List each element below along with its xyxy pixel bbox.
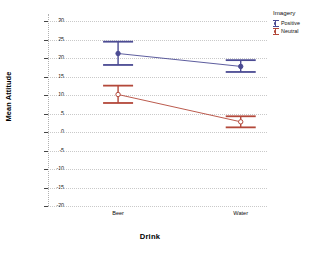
legend: Imagery PositiveNeutral xyxy=(272,9,330,36)
x-tick-label: Beer xyxy=(88,210,148,216)
error-bar-key-icon xyxy=(272,28,279,35)
legend-entries: PositiveNeutral xyxy=(272,20,330,35)
x-axis-title: Drink xyxy=(0,232,300,241)
data-point-marker xyxy=(239,120,243,124)
data-point-marker xyxy=(116,92,120,96)
x-tick-label: Water xyxy=(211,210,271,216)
series-neutral xyxy=(103,86,256,128)
error-bar-key-icon xyxy=(272,20,279,27)
plot-area xyxy=(48,14,267,206)
error-bar-chart: Mean Attitude 302520151050-5-10-15-20 Be… xyxy=(0,0,331,255)
gridline xyxy=(48,206,267,207)
legend-item-neutral[interactable]: Neutral xyxy=(272,28,330,35)
series-positive xyxy=(103,42,256,72)
legend-item-label: Neutral xyxy=(281,28,298,35)
legend-item-positive[interactable]: Positive xyxy=(272,20,330,27)
legend-title: Imagery xyxy=(272,9,330,17)
series-line xyxy=(118,95,241,122)
data-point-marker xyxy=(116,51,120,55)
legend-item-label: Positive xyxy=(281,20,300,27)
series-layer xyxy=(48,14,267,206)
y-axis-title: Mean Attitude xyxy=(4,37,13,157)
series-line xyxy=(118,54,241,67)
data-point-marker xyxy=(239,64,243,68)
